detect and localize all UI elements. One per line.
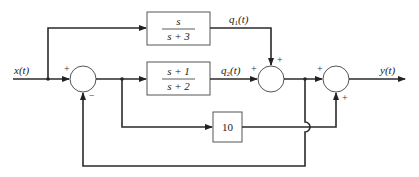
q1-label: q1(t) [229,13,249,27]
feedforward-wire [48,28,146,79]
block1-denominator: s + 3 [167,30,190,42]
block-s-over-s-plus-3: s s + 3 [147,12,210,45]
input-signal: x(t) [13,64,69,81]
block2-numerator: s + 1 [167,65,190,77]
summer-3: + + [317,63,349,103]
output-label: y(t) [379,64,396,77]
q2-label: q2(t) [221,64,241,78]
gain-value: 10 [222,121,234,133]
q1-wire [210,28,271,65]
sign-plus: + [251,63,257,74]
sign-minus: − [89,90,95,101]
sign-plus: + [64,63,70,74]
block1-numerator: s [176,15,180,27]
summer-1: + − [64,63,96,101]
input-label: x(t) [13,64,30,77]
block2-denominator: s + 2 [167,80,190,92]
sign-plus: + [277,54,283,65]
block-diagram: x(t) + − s s + 3 s + 1 s + 2 10 q1(t) q2… [0,0,419,177]
block-s-plus-1-over-s-plus-2: s + 1 s + 2 [147,62,210,95]
block-gain-10: 10 [213,112,242,142]
sign-plus: + [317,63,323,74]
gain-output-wire [242,93,336,127]
sign-plus: + [342,92,348,103]
summer-2: + + [251,54,284,92]
